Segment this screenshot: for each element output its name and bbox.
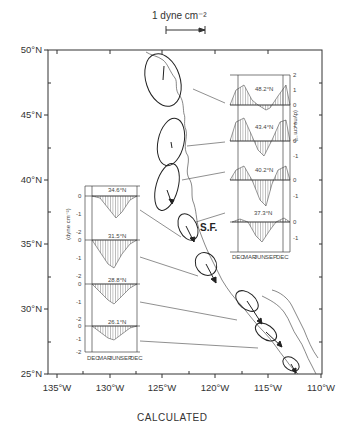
inset-right-month: JUN: [254, 254, 266, 260]
san-francisco-label: S.F.: [200, 222, 217, 233]
y-label-50n: 50°N: [2, 44, 42, 55]
x-label-130w: 130°W: [88, 382, 132, 393]
scale-bar-label: 1 dyne cm⁻²: [152, 10, 206, 21]
inset-left-tick: -1: [76, 255, 81, 261]
x-label-115w: 115°W: [246, 382, 290, 393]
inset-right-tick: -1: [293, 193, 298, 199]
inset-right-lat-3: 40.2°N: [255, 167, 273, 173]
inset-left-month: JUN: [109, 355, 121, 361]
inset-left-tick: -2: [76, 316, 81, 322]
inset-right-tick: 1: [293, 122, 296, 128]
y-label-30n: 30°N: [2, 303, 42, 314]
inset-left-lat-3: 28.8°N: [108, 277, 126, 283]
inset-left-lat-2: 31.5°N: [108, 233, 126, 239]
inset-right-tick: 2: [293, 72, 296, 78]
inset-left-lat-4: 26.1°N: [108, 319, 126, 325]
inset-left-tick: -1: [76, 336, 81, 342]
inset-left-tick: -1: [76, 211, 81, 217]
inset-left-tick: 0: [78, 193, 81, 199]
inset-right-tick: -1: [293, 153, 298, 159]
inset-left-tick: -2: [76, 349, 81, 355]
inset-left-month: DEC: [130, 355, 143, 361]
inset-left-unit: (dyne cm⁻²): [64, 208, 71, 240]
inset-left-tick: -1: [76, 299, 81, 305]
inset-left-tick: -2: [76, 273, 81, 279]
x-label-110w: 110°W: [299, 382, 343, 393]
x-label-120w: 120°W: [193, 382, 237, 393]
inset-right-tick: 0: [293, 102, 296, 108]
inset-left-tick: 0: [78, 237, 81, 243]
inset-right-tick: -1: [293, 235, 298, 241]
inset-right-tick: 0: [293, 177, 296, 183]
inset-right-tick: 1: [293, 87, 296, 93]
scale-bar: [166, 26, 205, 34]
wind-stress-map: [0, 0, 351, 433]
inset-right-tick: 0: [293, 219, 296, 225]
inset-left-tick: 0: [78, 323, 81, 329]
inset-right-hatching: [230, 85, 290, 242]
y-label-25n: 25°N: [2, 368, 42, 379]
baja-coastline: [262, 296, 316, 374]
y-label-45n: 45°N: [2, 109, 42, 120]
figure-title: CALCULATED: [137, 412, 207, 423]
y-label-40n: 40°N: [2, 174, 42, 185]
inset-left-tick: 0: [78, 281, 81, 287]
gulf-coastline: [272, 290, 318, 358]
inset-right-lat-1: 48.2°N: [255, 86, 273, 92]
inset-right-lat-2: 43.4°N: [255, 124, 273, 130]
x-label-125w: 125°W: [140, 382, 184, 393]
y-label-35n: 35°N: [2, 238, 42, 249]
inset-right-tick: 0: [293, 138, 296, 144]
x-label-135w: 135°W: [35, 382, 79, 393]
inset-right-lat-4: 37.3°N: [254, 210, 272, 216]
inset-left-tick: -2: [76, 229, 81, 235]
inset-right-month: DEC: [276, 254, 289, 260]
inset-left-lat-1: 34.6°N: [108, 187, 126, 193]
